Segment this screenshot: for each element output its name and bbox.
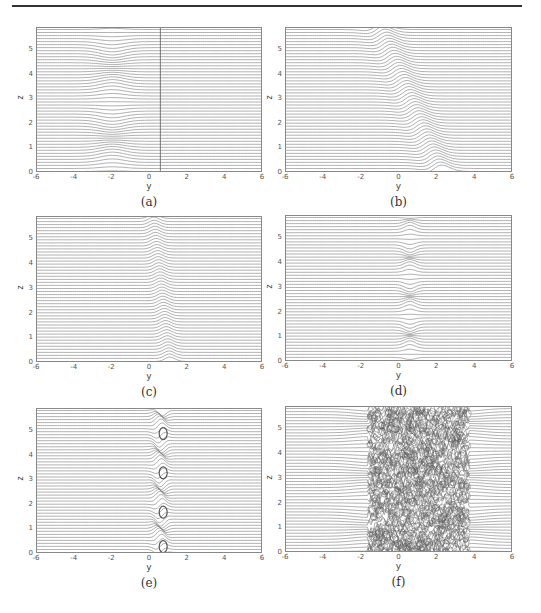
- x-tick-label: -4: [66, 173, 82, 181]
- x-tick-label: -6: [28, 554, 44, 562]
- x-tick-label: -2: [103, 554, 119, 562]
- x-tick-label: 4: [216, 173, 232, 181]
- y-tick-label: 1: [272, 523, 282, 531]
- x-tick-label: -2: [353, 362, 369, 370]
- x-tick-label: 4: [466, 553, 482, 561]
- x-tick-label: 6: [254, 554, 270, 562]
- x-tick-label: 0: [141, 173, 157, 181]
- x-tick-label: 6: [254, 363, 270, 371]
- y-tick-label: 4: [272, 258, 282, 266]
- x-tick-label: 6: [504, 362, 520, 370]
- y-axis-label: z: [265, 284, 274, 288]
- y-tick-label: 1: [23, 143, 33, 151]
- x-tick-label: 4: [216, 554, 232, 562]
- plot-area-a: [36, 27, 262, 172]
- streamlines-e: [37, 409, 262, 553]
- y-tick-label: 5: [272, 233, 282, 241]
- x-tick-label: -4: [315, 173, 331, 181]
- x-tick-label: 4: [466, 173, 482, 181]
- x-tick-label: -2: [353, 173, 369, 181]
- streamlines-b: [286, 28, 512, 172]
- x-tick-label: 2: [179, 554, 195, 562]
- x-tick-label: -6: [277, 362, 293, 370]
- x-tick-label: -4: [66, 363, 82, 371]
- panel-caption-f: (f): [384, 575, 414, 589]
- y-tick-label: 2: [272, 119, 282, 127]
- x-axis-label: y: [144, 181, 154, 191]
- panel-caption-a: (a): [134, 195, 164, 209]
- x-tick-label: -2: [103, 363, 119, 371]
- x-tick-label: 4: [466, 362, 482, 370]
- x-tick-label: 0: [391, 362, 407, 370]
- y-tick-label: 1: [23, 524, 33, 532]
- y-tick-label: 4: [272, 70, 282, 78]
- x-axis-label: y: [144, 562, 154, 572]
- plot-area-b: [285, 27, 512, 172]
- x-tick-label: 0: [141, 554, 157, 562]
- x-tick-label: 0: [391, 173, 407, 181]
- x-axis-label: y: [394, 181, 404, 191]
- x-tick-label: 2: [179, 173, 195, 181]
- streamlines-f: [286, 407, 512, 552]
- x-tick-label: 6: [504, 173, 520, 181]
- y-tick-label: 5: [23, 45, 33, 53]
- y-tick-label: 5: [23, 426, 33, 434]
- panel-caption-d: (d): [384, 384, 414, 398]
- plot-area-c: [36, 216, 262, 362]
- panel-caption-b: (b): [384, 195, 414, 209]
- y-axis-label: z: [265, 475, 274, 479]
- x-tick-label: -4: [315, 362, 331, 370]
- x-tick-label: 0: [141, 363, 157, 371]
- x-tick-label: -4: [66, 554, 82, 562]
- y-tick-label: 1: [23, 333, 33, 341]
- y-axis-label: z: [16, 96, 25, 100]
- y-tick-label: 2: [23, 119, 33, 127]
- y-tick-label: 1: [272, 143, 282, 151]
- plot-area-d: [285, 215, 512, 361]
- x-axis-label: y: [144, 371, 154, 381]
- x-tick-label: 6: [504, 553, 520, 561]
- x-tick-label: -6: [28, 363, 44, 371]
- x-tick-label: 2: [428, 553, 444, 561]
- x-tick-label: 2: [428, 173, 444, 181]
- y-tick-label: 4: [272, 449, 282, 457]
- streamlines-a: [37, 28, 262, 172]
- x-tick-label: 2: [428, 362, 444, 370]
- plot-area-f: [285, 406, 512, 552]
- panel-caption-c: (c): [134, 385, 164, 399]
- x-tick-label: -6: [28, 173, 44, 181]
- plot-area-e: [36, 408, 262, 553]
- y-axis-label: z: [16, 477, 25, 481]
- streamlines-d: [286, 216, 512, 361]
- y-tick-label: 1: [272, 332, 282, 340]
- x-tick-label: -4: [315, 553, 331, 561]
- x-tick-label: -2: [103, 173, 119, 181]
- x-tick-label: -2: [353, 553, 369, 561]
- y-tick-label: 2: [23, 309, 33, 317]
- y-tick-label: 5: [272, 45, 282, 53]
- x-tick-label: -6: [277, 173, 293, 181]
- x-tick-label: 4: [216, 363, 232, 371]
- x-tick-label: -6: [277, 553, 293, 561]
- y-tick-label: 5: [23, 234, 33, 242]
- panel-caption-e: (e): [134, 576, 164, 590]
- x-axis-label: y: [394, 370, 404, 380]
- x-tick-label: 0: [391, 553, 407, 561]
- y-tick-label: 2: [272, 308, 282, 316]
- y-tick-label: 4: [23, 259, 33, 267]
- x-tick-label: 2: [179, 363, 195, 371]
- x-tick-label: 6: [254, 173, 270, 181]
- y-axis-label: z: [16, 285, 25, 289]
- y-tick-label: 4: [23, 451, 33, 459]
- y-tick-label: 2: [23, 500, 33, 508]
- streamlines-c: [37, 217, 262, 362]
- page-top-rule: [12, 5, 522, 7]
- y-tick-label: 4: [23, 70, 33, 78]
- y-axis-label: z: [265, 96, 274, 100]
- x-axis-label: y: [394, 561, 404, 571]
- y-tick-label: 2: [272, 499, 282, 507]
- y-tick-label: 5: [272, 424, 282, 432]
